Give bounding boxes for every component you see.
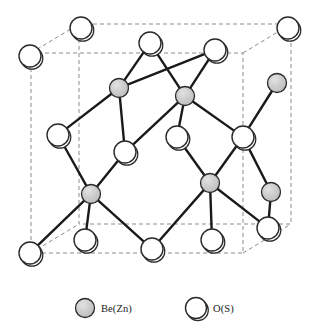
cation-atom-c3 (82, 185, 101, 204)
bond-c1-a6 (64, 92, 114, 130)
cation-atom-c5 (268, 74, 287, 93)
bond-network (36, 50, 274, 248)
anion-atom-a8 (166, 126, 188, 148)
anion-atom-a10 (19, 242, 41, 264)
bond-a7-c3 (95, 158, 120, 189)
bond-a9-c5 (247, 89, 273, 131)
bond-c3-a12 (96, 198, 146, 243)
bond-a6-c3 (62, 142, 88, 188)
legend: Be(Zn)O(S) (76, 298, 235, 321)
bond-c1-a7 (120, 94, 125, 144)
atom-layer (19, 17, 301, 266)
legend-label-cation: Be(Zn) (101, 303, 132, 315)
cation-atom-c1 (110, 79, 129, 98)
cation-atom-c2 (176, 87, 195, 106)
anion-atom-a6 (47, 124, 69, 146)
bond-a9-c6 (247, 144, 268, 186)
anion-atom-a4 (277, 17, 299, 39)
cation-atom-c6 (262, 183, 281, 202)
anion-atom-a11 (74, 229, 96, 251)
anion-atom-a2 (139, 32, 161, 54)
bond-c4-a12 (157, 188, 205, 243)
anion-atom-a14 (257, 217, 279, 239)
anion-atom-a9 (232, 126, 254, 148)
bond-c4-a14 (215, 187, 262, 223)
anion-atom-a13 (201, 229, 223, 251)
bond-c2-a9 (190, 100, 236, 133)
bond-c3-a11 (86, 200, 90, 232)
anion-atom-a5 (19, 45, 41, 67)
legend-label-anion: O(S) (213, 303, 234, 315)
legend-marker-cation (76, 299, 95, 318)
anion-atom-a3 (204, 39, 226, 61)
bond-a3-c2 (189, 57, 211, 91)
bond-a2-c2 (154, 50, 181, 91)
anion-atom-a7 (114, 141, 136, 163)
bond-c2-a8 (179, 102, 184, 129)
cell-back-face (79, 24, 291, 224)
legend-marker-anion (186, 298, 207, 319)
cation-atom-c4 (201, 174, 220, 193)
anion-atom-a1 (70, 17, 92, 39)
crystal-structure-canvas: Be(Zn)O(S) (0, 0, 327, 336)
crystal-structure-figure: Be(Zn)O(S) (0, 0, 327, 336)
anion-atom-a12 (141, 238, 163, 260)
bond-c4-a13 (210, 189, 211, 232)
bond-a9-c4 (214, 144, 239, 178)
